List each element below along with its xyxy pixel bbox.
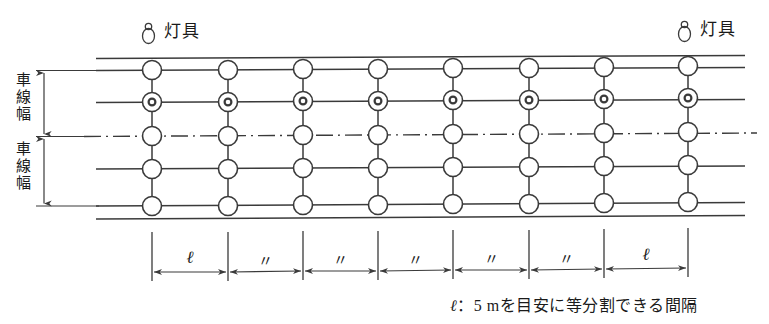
segment-label-5: 〃 [471,247,511,268]
lamp-node [444,125,463,144]
lamp-node [369,60,388,79]
segment-label-4: 〃 [395,248,435,269]
segment-label-2: 〃 [245,249,285,270]
lamp-node [294,60,313,79]
lamp-node [219,127,238,146]
lamp-node [679,193,698,212]
lamp-node [143,160,162,179]
lamp-node [444,59,463,78]
lamp-node [520,158,539,177]
lamp-node [294,196,313,215]
lamp-node [520,125,539,144]
row-line-4 [96,166,745,169]
lamp-node [679,57,698,76]
lamp-node [520,59,539,78]
lamp-icon-left [143,23,155,43]
lamp-node [595,124,614,143]
lamp-icon-right [679,21,691,41]
lamp-node [679,156,698,175]
road-edge-bottom [96,216,745,220]
segment-label-3: 〃 [320,248,360,269]
segment-label-1: ℓ [170,248,210,268]
lamp-node [143,61,162,80]
diagram-canvas: 灯具 灯具 車線幅 車線幅 ℓ 〃 〃 〃 〃 〃 ℓ ℓ：5 mを目安に等分割… [0,0,769,324]
lamp-nodes [143,57,698,216]
lamp-node [219,197,238,216]
lamp-node [369,196,388,215]
lamp-node [143,197,162,216]
road-centerline [84,133,757,137]
lamp-node [679,123,698,142]
lamp-node [294,126,313,145]
segment-label-6: 〃 [546,247,586,268]
lamp-node [369,159,388,178]
segment-label-7: ℓ [626,245,666,265]
lamp-label-right: 灯具 [700,15,736,40]
lamp-label-left: 灯具 [164,17,200,42]
lamp-node [444,195,463,214]
lane-width-dimensions [36,71,99,207]
lamp-node [369,126,388,145]
lamp-node [595,58,614,77]
row-line-1 [96,68,745,71]
road-edge-top [96,56,745,59]
lamp-node [143,127,162,146]
road-layout-svg [0,0,769,324]
lamp-node [595,194,614,213]
caption-text: ：5 mを目安に等分割できる間隔 [457,297,697,314]
lamp-node [595,157,614,176]
lamp-node [219,160,238,179]
lamp-node [444,158,463,177]
caption: ℓ：5 mを目安に等分割できる間隔 [450,292,698,316]
row-line-5 [96,203,745,207]
lane-width-label-lower: 車線幅 [14,141,29,192]
row-line-2 [96,100,745,103]
lamp-node [219,61,238,80]
lamp-node [294,159,313,178]
lane-width-label-upper: 車線幅 [14,72,29,123]
lamp-node [520,195,539,214]
